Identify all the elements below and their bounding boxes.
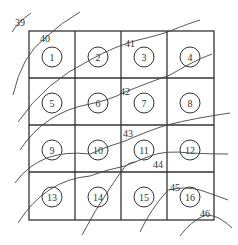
svg-text:5: 5: [50, 98, 55, 109]
contour-label-46: 46: [200, 208, 210, 219]
svg-text:11: 11: [139, 145, 149, 156]
cell-12: 12: [180, 140, 200, 160]
cell-15: 15: [134, 187, 154, 207]
contour-label-39: 39: [15, 17, 25, 28]
cell-8: 8: [180, 93, 200, 113]
contour-label-41: 41: [125, 38, 135, 49]
svg-text:12: 12: [185, 145, 195, 156]
svg-text:7: 7: [142, 98, 147, 109]
svg-text:13: 13: [47, 192, 57, 203]
contour-label-45: 45: [170, 182, 180, 193]
contour-44-lower: [82, 162, 135, 235]
cell-13: 13: [42, 187, 62, 207]
svg-text:4: 4: [188, 52, 193, 63]
cell-5: 5: [42, 93, 62, 113]
contour-label-44: 44: [153, 159, 163, 170]
contour-label-40: 40: [40, 33, 50, 44]
cell-7: 7: [134, 93, 154, 113]
contour-label-42: 42: [120, 86, 130, 97]
contour-grid-diagram: 1 2 3 4 5 6 7 8 9 10 11 12 13 14 15 16 3…: [0, 0, 238, 245]
cell-3: 3: [134, 47, 154, 67]
cell-1: 1: [42, 47, 62, 67]
svg-text:8: 8: [188, 98, 193, 109]
cell-14: 14: [88, 187, 108, 207]
cell-11: 11: [134, 140, 154, 160]
cell-2: 2: [88, 47, 108, 67]
svg-text:15: 15: [139, 192, 149, 203]
cell-6: 6: [88, 93, 108, 113]
svg-text:3: 3: [142, 52, 147, 63]
cell-9: 9: [42, 140, 62, 160]
svg-text:16: 16: [185, 192, 195, 203]
cell-16: 16: [180, 187, 200, 207]
contour-label-43: 43: [123, 128, 133, 139]
svg-text:9: 9: [50, 145, 55, 156]
svg-text:1: 1: [50, 52, 55, 63]
